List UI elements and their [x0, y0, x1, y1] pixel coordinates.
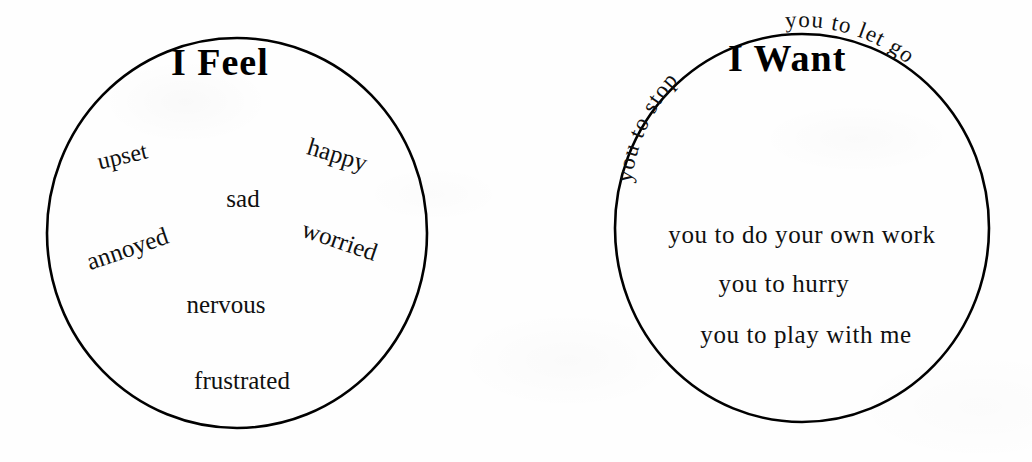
i-feel-circle-group: I Feel upset happy sad annoyed worried n… — [0, 0, 520, 462]
want-line-hurry: you to hurry — [719, 271, 850, 296]
i-want-circle-group: I Want you to stop you to let go you to … — [560, 0, 1032, 462]
want-arc-you-to-stop: you to stop — [611, 67, 683, 184]
i-feel-title: I Feel — [171, 43, 269, 81]
want-arc-you-to-stop-path: you to stop — [611, 67, 683, 184]
feel-word-nervous: nervous — [186, 292, 265, 317]
want-arc-you-to-let-go-path: you to let go — [784, 7, 920, 69]
want-arc-you-to-let-go: you to let go — [784, 7, 920, 69]
feel-word-frustrated: frustrated — [194, 368, 290, 393]
want-line-play-with-me: you to play with me — [700, 322, 911, 347]
feel-word-sad: sad — [226, 186, 259, 211]
worksheet-page: I Feel upset happy sad annoyed worried n… — [0, 0, 1032, 462]
want-line-do-your-own-work: you to do your own work — [668, 222, 935, 247]
